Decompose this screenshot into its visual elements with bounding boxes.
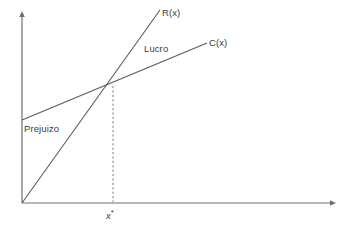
breakeven-chart xyxy=(0,0,347,230)
x-axis-arrowhead xyxy=(330,200,336,206)
revenue-line-label: R(x) xyxy=(162,7,180,18)
breakeven-axis-label: x* xyxy=(106,207,114,221)
revenue-line xyxy=(22,10,160,203)
profit-region-label: Lucro xyxy=(144,43,168,54)
y-axis-arrowhead xyxy=(19,11,25,17)
loss-region-label: Prejuizo xyxy=(24,123,59,134)
chart-canvas: R(x) C(x) Lucro Prejuizo x* xyxy=(0,0,347,230)
cost-line xyxy=(22,43,207,120)
breakeven-asterisk: * xyxy=(111,208,114,217)
cost-line-label: C(x) xyxy=(209,37,227,48)
